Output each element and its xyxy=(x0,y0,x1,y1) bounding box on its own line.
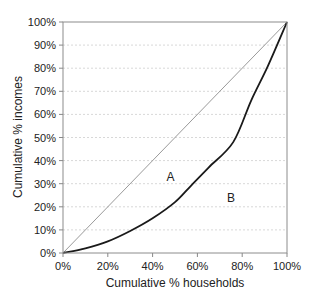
x-tick-label: 20% xyxy=(97,260,119,272)
x-tick-label: 80% xyxy=(231,260,253,272)
y-tick-label: 20% xyxy=(34,201,56,213)
y-axis-ticks: 0%10%20%30%40%50%60%70%80%90%100% xyxy=(28,16,63,259)
y-axis-title: Cumulative % incomes xyxy=(11,76,25,198)
y-tick-label: 90% xyxy=(34,39,56,51)
x-tick-label: 60% xyxy=(186,260,208,272)
x-tick-label: 100% xyxy=(273,260,301,272)
y-tick-label: 80% xyxy=(34,62,56,74)
lorenz-curve-chart: 0%10%20%30%40%50%60%70%80%90%100% 0%20%4… xyxy=(0,0,318,297)
y-tick-label: 0% xyxy=(40,247,56,259)
y-tick-label: 10% xyxy=(34,224,56,236)
y-tick-label: 40% xyxy=(34,155,56,167)
region-label-a: A xyxy=(167,170,175,184)
y-tick-label: 70% xyxy=(34,85,56,97)
y-tick-label: 60% xyxy=(34,108,56,120)
y-tick-label: 50% xyxy=(34,132,56,144)
x-axis-ticks: 0%20%40%60%80%100% xyxy=(55,253,301,272)
y-tick-label: 100% xyxy=(28,16,56,28)
x-tick-label: 0% xyxy=(55,260,71,272)
x-axis-title: Cumulative % households xyxy=(106,276,245,290)
x-tick-label: 40% xyxy=(142,260,164,272)
y-tick-label: 30% xyxy=(34,178,56,190)
region-label-b: B xyxy=(227,191,235,205)
